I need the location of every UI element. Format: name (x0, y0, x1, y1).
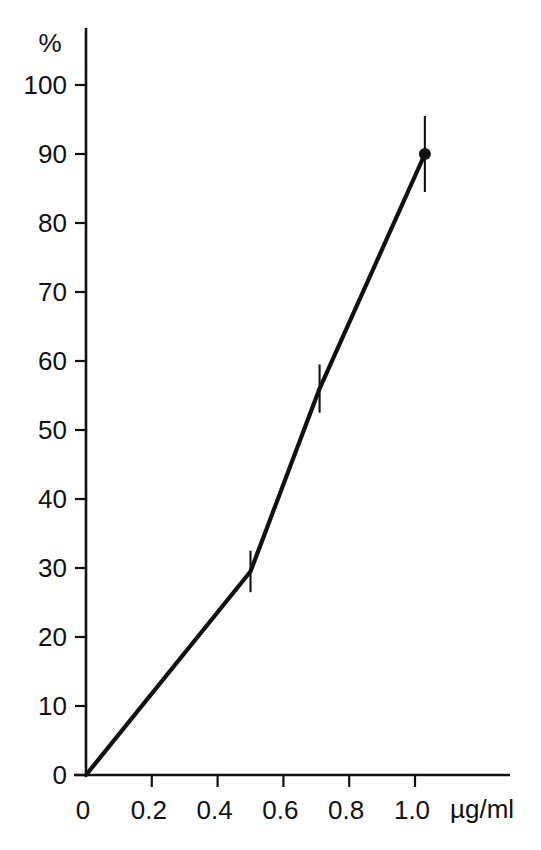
y-tick-label-70: 70 (38, 277, 67, 307)
x-tick-label-1.0: 1.0 (394, 795, 430, 825)
data-point-3 (419, 148, 431, 160)
y-tick-label-0: 0 (53, 760, 67, 790)
y-tick-label-40: 40 (38, 484, 67, 514)
y-axis-title: % (38, 28, 61, 58)
data-markers (419, 148, 431, 160)
y-tick-label-50: 50 (38, 415, 67, 445)
y-tick-label-90: 90 (38, 139, 67, 169)
x-axis-title: µg/ml (450, 794, 514, 824)
y-tick-label-60: 60 (38, 346, 67, 376)
x-tick-label-0.2: 0.2 (131, 795, 167, 825)
x-tick-label-0.8: 0.8 (328, 795, 364, 825)
x-tick-label-0.6: 0.6 (262, 795, 298, 825)
y-tick-label-30: 30 (38, 553, 67, 583)
chart-figure: 0102030405060708090100 00.20.40.60.81.0 … (0, 0, 541, 850)
chart-background (0, 0, 541, 850)
y-tick-label-80: 80 (38, 208, 67, 238)
y-tick-label-20: 20 (38, 622, 67, 652)
y-tick-label-100: 100 (24, 70, 67, 100)
chart-canvas: 0102030405060708090100 00.20.40.60.81.0 … (0, 0, 541, 850)
y-tick-label-10: 10 (38, 691, 67, 721)
x-tick-label-0: 0 (76, 795, 90, 825)
x-tick-label-0.4: 0.4 (197, 795, 233, 825)
